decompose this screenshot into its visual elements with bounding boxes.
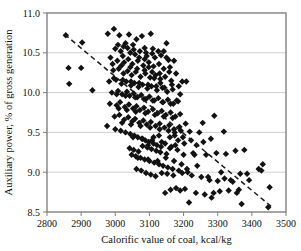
xtick-label-3400: 3400 — [242, 218, 262, 229]
ytick-label-8.5: 8.5 — [28, 207, 41, 218]
xtick-label-3100: 3100 — [139, 218, 159, 229]
y-axis-title: Auxiliary power, % of gross generation — [3, 29, 14, 196]
xtick-label-3200: 3200 — [174, 218, 194, 229]
ytick-label-9.5: 9.5 — [28, 127, 41, 138]
ytick-label-10.0: 10.0 — [23, 87, 41, 98]
xtick-label-3500: 3500 — [276, 218, 296, 229]
ytick-label-11.0: 11.0 — [23, 8, 40, 19]
xtick-label-3300: 3300 — [208, 218, 228, 229]
chart-canvas: 8.59.09.510.010.511.02800290030003100320… — [0, 0, 301, 251]
ytick-label-10.5: 10.5 — [23, 47, 41, 58]
ytick-label-9.0: 9.0 — [28, 167, 41, 178]
scatter-chart-figure: 8.59.09.510.010.511.02800290030003100320… — [0, 0, 301, 251]
xtick-label-2900: 2900 — [71, 218, 91, 229]
xtick-label-2800: 2800 — [37, 218, 57, 229]
xtick-label-3000: 3000 — [105, 218, 125, 229]
x-axis-title: Calorific value of coal, kcal/kg — [101, 234, 232, 245]
